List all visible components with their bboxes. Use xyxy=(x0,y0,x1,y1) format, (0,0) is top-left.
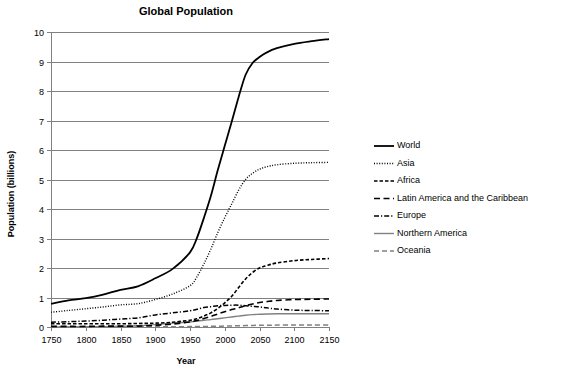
y-tick-label: 4 xyxy=(39,205,44,215)
legend-label: Northern America xyxy=(397,228,467,238)
y-tick-label: 1 xyxy=(39,294,44,304)
x-tick-label: 2100 xyxy=(284,335,304,345)
legend-label: Europe xyxy=(397,210,426,220)
y-tick-label: 6 xyxy=(39,146,44,156)
x-tick-label: 1900 xyxy=(145,335,165,345)
x-tick-label: 1850 xyxy=(111,335,131,345)
series-line-asia xyxy=(51,162,329,312)
y-tick-label: 10 xyxy=(34,28,44,38)
x-axis-label: Year xyxy=(176,356,196,366)
x-axis-ticks: 175018001850190019502000205021002150 xyxy=(41,327,339,345)
y-tick-label: 5 xyxy=(39,176,44,186)
legend-label: Latin America and the Caribbean xyxy=(397,193,528,203)
legend-label: World xyxy=(397,140,420,150)
chart-title: Global Population xyxy=(139,5,233,17)
x-tick-label: 2150 xyxy=(319,335,339,345)
x-tick-label: 2050 xyxy=(250,335,270,345)
y-tick-label: 9 xyxy=(39,58,44,68)
global-population-line-chart: Global Population 012345678910 175018001… xyxy=(0,0,564,375)
legend-label: Africa xyxy=(397,175,420,185)
chart-legend: WorldAsiaAfricaLatin America and the Car… xyxy=(374,140,528,255)
x-tick-label: 1950 xyxy=(180,335,200,345)
x-tick-label: 1800 xyxy=(76,335,96,345)
gridlines xyxy=(51,32,329,328)
legend-label: Oceania xyxy=(397,245,431,255)
series-line-world xyxy=(51,39,329,304)
data-series-group xyxy=(51,39,329,327)
legend-label: Asia xyxy=(397,158,415,168)
y-tick-label: 3 xyxy=(39,235,44,245)
x-tick-label: 1750 xyxy=(41,335,61,345)
y-axis-ticks: 012345678910 xyxy=(34,28,51,333)
x-tick-label: 2000 xyxy=(215,335,235,345)
y-tick-label: 7 xyxy=(39,117,44,127)
chart-container: Global Population 012345678910 175018001… xyxy=(0,0,564,375)
y-tick-label: 8 xyxy=(39,87,44,97)
y-tick-label: 0 xyxy=(39,323,44,333)
y-axis-label: Population (billions) xyxy=(6,151,16,238)
y-tick-label: 2 xyxy=(39,264,44,274)
